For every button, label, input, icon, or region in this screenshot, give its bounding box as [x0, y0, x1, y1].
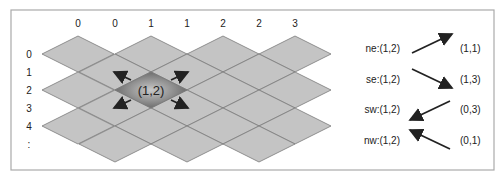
- row-label: 4: [26, 121, 32, 132]
- row-label: 3: [26, 103, 32, 114]
- column-label: 3: [292, 18, 298, 29]
- row-label: 2: [26, 85, 32, 96]
- neighbor-arrows: [410, 34, 452, 149]
- column-label: 1: [184, 18, 190, 29]
- se-label: se:(1,2): [366, 74, 400, 85]
- tile-grid: [42, 36, 331, 162]
- nw-result: (0,1): [460, 135, 481, 146]
- row-labels: 01234:: [26, 49, 32, 150]
- row-label: 1: [26, 67, 32, 78]
- se-result: (1,3): [460, 74, 481, 85]
- column-labels: 0011223: [75, 18, 298, 29]
- ne-label: ne:(1,2): [366, 43, 400, 54]
- center-cell-label: (1,2): [138, 83, 165, 98]
- ne-result: (1,1): [460, 43, 481, 54]
- column-label: 0: [75, 18, 81, 29]
- column-label: 0: [112, 18, 118, 29]
- row-label: 0: [26, 49, 32, 60]
- diamond-grid-diagram: (1,2) 0011223 01234: ne:(1,2) (1,1) se:(…: [0, 0, 504, 180]
- column-label: 2: [220, 18, 226, 29]
- column-label: 1: [148, 18, 154, 29]
- column-label: 2: [256, 18, 262, 29]
- diagram: (1,2) 0011223 01234: ne:(1,2) (1,1) se:(…: [0, 0, 504, 180]
- nw-label: nw:(1,2): [364, 135, 400, 146]
- row-label: :: [28, 139, 31, 150]
- sw-result: (0,3): [460, 104, 481, 115]
- sw-label: sw:(1,2): [364, 104, 400, 115]
